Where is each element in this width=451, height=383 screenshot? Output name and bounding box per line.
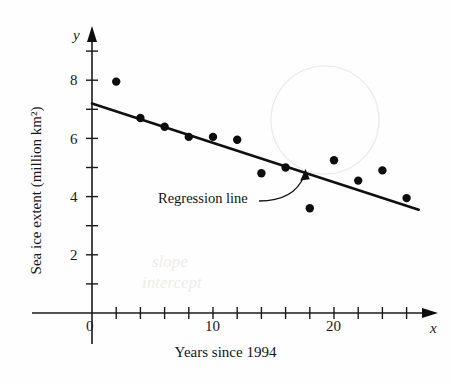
y-tick-label-8: 8 [70,72,78,89]
data-point [306,204,314,212]
y-tick-label-6: 6 [70,131,78,148]
data-point [330,156,338,164]
data-point [257,169,265,177]
x-axis-arrowhead [422,308,438,318]
data-point [112,77,120,85]
y-tick-label-2: 2 [70,247,78,264]
y-axis-variable-label: y [73,27,80,44]
x-axis-variable-label: x [430,320,437,337]
data-point [281,163,289,171]
y-axis-arrowhead [87,26,97,42]
data-point [378,166,386,174]
data-point [136,114,144,122]
data-point [354,176,362,184]
y-tick-label-4: 4 [70,189,78,206]
x-tick-label-20: 20 [326,318,341,335]
data-point [233,136,241,144]
y-axis-title: Sea ice extent (million km²) [28,81,45,301]
annotation-leader-line [259,176,304,201]
x-tick-label-0: 0 [86,318,94,335]
figure-container: slope intercept [0,0,451,383]
x-axis-title: Years since 1994 [0,344,451,361]
data-point [160,123,168,131]
bleedthrough-circle [271,66,379,174]
data-point [185,133,193,141]
x-tick-label-10: 10 [205,318,220,335]
data-point [402,194,410,202]
data-point [209,133,217,141]
regression-line-annotation: Regression line [158,190,248,207]
